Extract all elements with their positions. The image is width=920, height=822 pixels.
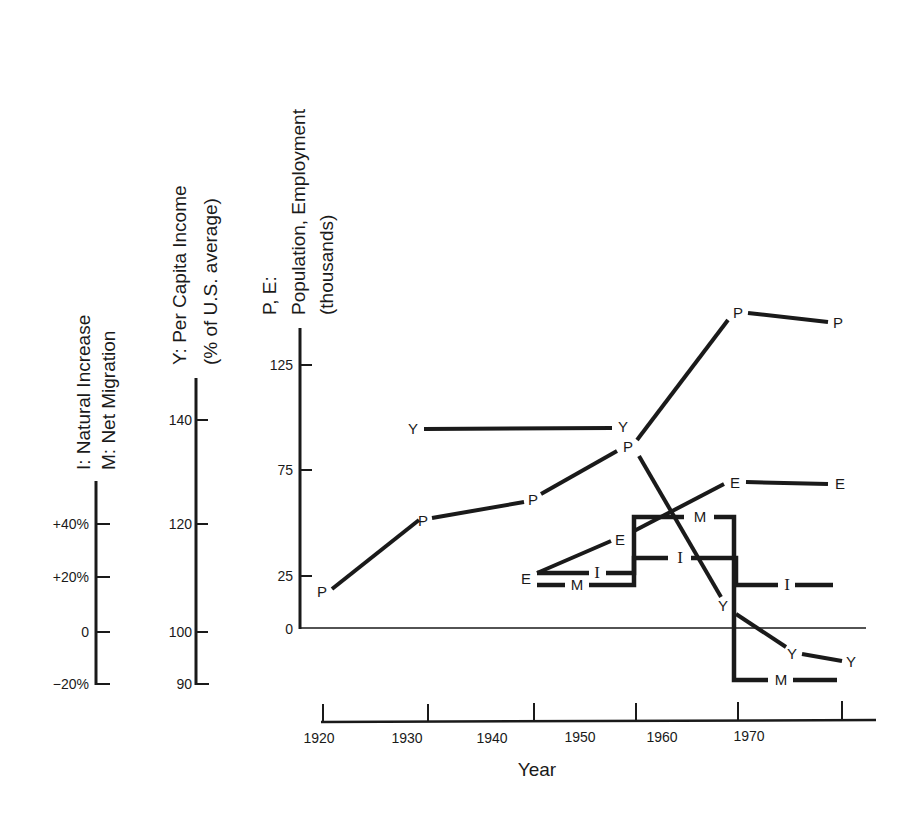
svg-text:M: Net Migration: M: Net Migration	[98, 331, 119, 470]
svg-text:(thousands): (thousands)	[316, 215, 337, 315]
x-axis	[321, 701, 876, 722]
svg-text:1950: 1950	[564, 729, 595, 745]
x-axis-ticks: 1920 1930 1940 1950 1960 1970	[303, 728, 764, 746]
svg-text:M: M	[694, 508, 707, 525]
svg-text:M: M	[571, 576, 584, 593]
svg-text:M: M	[775, 671, 788, 688]
svg-text:0: 0	[81, 624, 89, 640]
svg-text:Y: Y	[618, 418, 628, 435]
svg-text:1940: 1940	[476, 730, 507, 746]
svg-text:E: E	[835, 475, 845, 492]
svg-text:Y: Y	[846, 653, 856, 670]
svg-text:P: P	[623, 438, 633, 455]
income-axis-ticks: 140 120 100 90	[169, 412, 193, 692]
svg-text:Y: Y	[718, 597, 728, 614]
x-axis-title: Year	[518, 759, 557, 780]
svg-text:90: 90	[176, 676, 192, 692]
svg-text:Population, Employment: Population, Employment	[288, 108, 309, 315]
svg-text:(% of U.S. average): (% of U.S. average)	[200, 198, 221, 365]
svg-text:P: P	[733, 304, 743, 321]
svg-text:P: P	[418, 512, 428, 529]
im-axis-ticks: +40% +20% 0 −20%	[53, 516, 89, 692]
svg-text:25: 25	[277, 568, 293, 584]
im-axis	[96, 481, 110, 685]
svg-text:140: 140	[169, 412, 193, 428]
svg-text:E: E	[521, 570, 531, 587]
svg-text:−20%: −20%	[53, 676, 89, 692]
svg-text:120: 120	[169, 516, 193, 532]
svg-text:Y: Y	[408, 420, 418, 437]
svg-text:1920: 1920	[303, 730, 334, 746]
svg-text:125: 125	[270, 357, 294, 373]
chart: I: Natural Increase M: Net Migration Y: …	[0, 0, 920, 822]
svg-text:+20%: +20%	[53, 569, 89, 585]
svg-text:I: I	[594, 563, 600, 582]
income-axis	[196, 378, 209, 685]
population-axis-ticks: 125 75 25 0	[270, 357, 294, 637]
svg-text:P: P	[317, 583, 327, 600]
svg-text:P: P	[528, 491, 538, 508]
svg-text:P: P	[833, 314, 843, 331]
svg-text:0: 0	[285, 621, 293, 637]
svg-text:Y: Per Capita Income: Y: Per Capita Income	[169, 185, 190, 365]
svg-text:E: E	[615, 531, 625, 548]
svg-text:I: Natural Increase: I: Natural Increase	[73, 315, 94, 470]
svg-text:1970: 1970	[733, 728, 764, 744]
series-population	[332, 313, 828, 589]
svg-text:I: I	[677, 548, 683, 567]
im-axis-title: I: Natural Increase M: Net Migration	[73, 315, 119, 470]
income-axis-title: Y: Per Capita Income (% of U.S. average)	[169, 185, 221, 365]
svg-text:I: I	[784, 575, 790, 594]
net-migration-markers: M M M	[571, 508, 788, 688]
svg-text:E: E	[730, 474, 740, 491]
svg-text:100: 100	[169, 624, 193, 640]
population-axis-title: P, E: Population, Employment (thousands)	[259, 108, 337, 315]
svg-text:1930: 1930	[391, 730, 422, 746]
svg-text:75: 75	[277, 462, 293, 478]
svg-text:+40%: +40%	[53, 516, 89, 532]
svg-text:P, E:: P, E:	[259, 276, 280, 315]
svg-text:1960: 1960	[646, 729, 677, 745]
svg-text:Y: Y	[787, 645, 797, 662]
